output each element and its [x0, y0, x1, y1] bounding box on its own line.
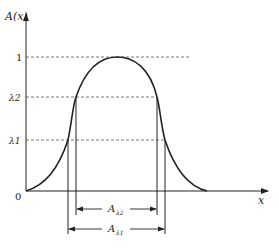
level-lambda2-label: λ2: [8, 93, 21, 103]
interval-lambda1-label: A λ1: [107, 223, 124, 236]
svg-text:A: A: [107, 203, 115, 214]
level-lambda1-label: λ1: [8, 136, 20, 146]
svg-text:A: A: [107, 223, 115, 234]
interval-lambda2-label: A λ2: [107, 203, 124, 216]
svg-text:λ1: λ1: [115, 229, 124, 236]
svg-text:λ2: λ2: [115, 209, 124, 216]
level-1-label: 1: [16, 52, 22, 63]
membership-curve: [26, 57, 207, 191]
y-axis-label: A(x): [4, 10, 28, 23]
origin-label: 0: [15, 191, 21, 202]
x-axis-label: x: [258, 194, 265, 207]
membership-function-diagram: A(x) x 0 1 λ2 λ1 A λ2 A λ1: [0, 0, 279, 249]
